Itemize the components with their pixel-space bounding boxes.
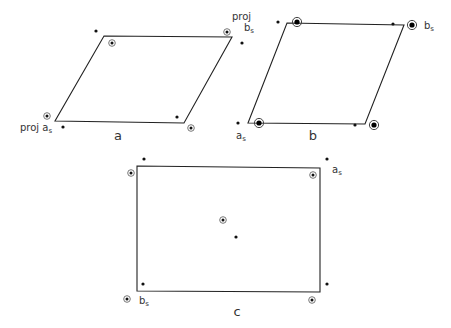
cell-outline bbox=[137, 166, 320, 292]
lattice-dot bbox=[234, 235, 237, 238]
point-label: as bbox=[236, 130, 246, 143]
point-label: bs bbox=[424, 20, 434, 33]
point-label: proj as bbox=[20, 122, 52, 135]
cell-outline bbox=[248, 23, 404, 124]
lattice-dot bbox=[175, 115, 178, 118]
lattice-dot bbox=[325, 282, 328, 285]
circled-dot bbox=[312, 174, 315, 177]
lattice-dot bbox=[94, 29, 97, 32]
circled-dot bbox=[111, 42, 114, 45]
circled-dot bbox=[311, 299, 314, 302]
lattice-dot bbox=[391, 22, 394, 25]
large-circled-dot bbox=[409, 22, 414, 27]
panel-caption-b: b bbox=[309, 128, 317, 143]
point-label: bs bbox=[139, 295, 149, 308]
circled-dot bbox=[222, 219, 225, 222]
circled-dot bbox=[226, 31, 229, 34]
panel-caption-c: c bbox=[233, 304, 240, 319]
large-circled-dot bbox=[294, 19, 299, 24]
lattice-dot bbox=[240, 41, 243, 44]
lattice-projection-diagram: proj asprojbsbsasasbsabc bbox=[0, 0, 451, 328]
circled-dot bbox=[126, 298, 129, 301]
lattice-dot bbox=[325, 157, 328, 160]
circled-dot bbox=[130, 172, 133, 175]
lattice-dot bbox=[276, 20, 279, 23]
lattice-dot bbox=[236, 121, 239, 124]
lattice-dot bbox=[142, 157, 145, 160]
circled-dot bbox=[46, 115, 49, 118]
point-label: proj bbox=[232, 11, 251, 22]
cell-outline bbox=[55, 36, 232, 123]
panel-b: bsas bbox=[236, 17, 434, 143]
panel-c: asbs bbox=[124, 157, 342, 308]
point-label: bs bbox=[244, 22, 254, 35]
circled-dot bbox=[190, 127, 193, 130]
lattice-dot bbox=[61, 125, 64, 128]
lattice-dot bbox=[353, 123, 356, 126]
lattice-dot bbox=[141, 282, 144, 285]
point-label: as bbox=[332, 164, 342, 177]
large-circled-dot bbox=[256, 120, 261, 125]
panel-a: proj asprojbs bbox=[20, 11, 254, 135]
large-circled-dot bbox=[371, 122, 376, 127]
panel-caption-a: a bbox=[114, 128, 122, 143]
